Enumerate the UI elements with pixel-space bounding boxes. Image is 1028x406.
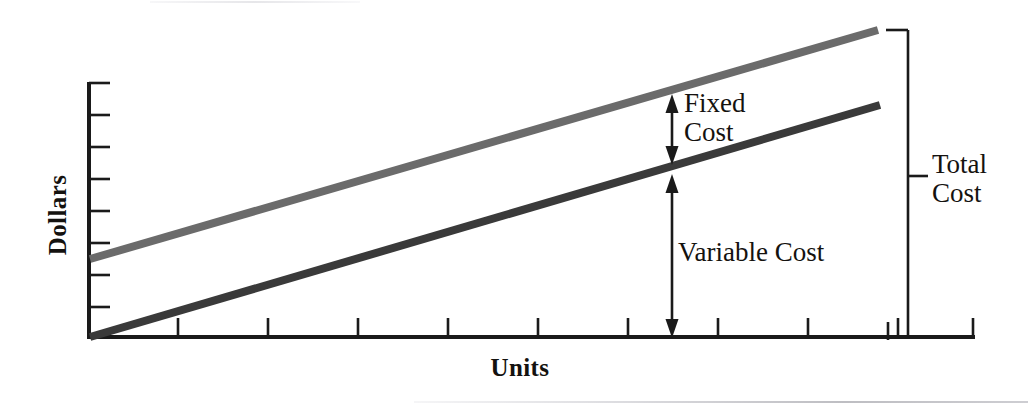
arrowhead-up: [666, 174, 679, 193]
variable-cost-arrow: [666, 174, 679, 338]
variable-cost-label: Variable Cost: [678, 238, 824, 267]
y-axis-ticks: [89, 83, 110, 307]
x-axis-ticks: [178, 318, 973, 337]
fixed-cost-arrow: [666, 94, 679, 165]
scan-artifact-bottom-rule: [414, 401, 1028, 403]
total-cost-label-line-2: Cost: [932, 179, 987, 208]
total-cost-label: Total Cost: [932, 150, 987, 208]
chart-canvas: [0, 0, 1028, 406]
fixed-cost-label-line-2: Cost: [684, 118, 746, 147]
fixed-cost-label-line-1: Fixed: [684, 89, 746, 118]
total-cost-label-line-1: Total: [932, 150, 987, 179]
scan-artifact-top: [150, 1, 360, 3]
total-cost-bracket: [886, 30, 928, 340]
y-axis-label: Dollars: [44, 175, 72, 256]
arrowhead-up: [666, 94, 679, 113]
cost-behavior-chart: Dollars Units Fixed Cost Variable Cost T…: [0, 0, 1028, 406]
x-axis-label: Units: [491, 354, 550, 382]
fixed-cost-label: Fixed Cost: [684, 89, 746, 147]
series-group: [90, 30, 880, 337]
